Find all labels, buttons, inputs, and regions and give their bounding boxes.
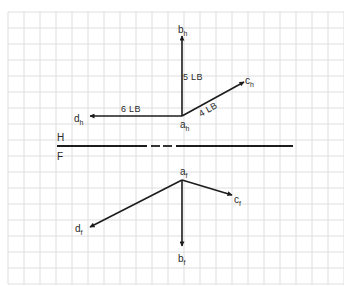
horizontal-view: ah bh ch dh 5 LB 4 LB 6 LB (74, 24, 254, 132)
vector-diagram: H F ah bh ch dh 5 LB 4 LB 6 LB af bf cf … (0, 0, 344, 286)
magnitude-label-b: 5 LB (183, 72, 203, 82)
magnitude-label-d: 6 LB (121, 104, 141, 114)
point-label-b-f: bf (178, 253, 186, 266)
fold-label-f: F (57, 151, 63, 162)
point-label-c-h: ch (245, 75, 254, 88)
fold-label-h: H (57, 132, 64, 143)
vector-c-f (182, 180, 232, 195)
point-label-d-f: df (75, 223, 83, 236)
graph-paper-grid (8, 12, 344, 284)
point-label-b-h: bh (178, 24, 188, 37)
point-label-a-h: ah (180, 119, 190, 132)
point-label-c-f: cf (234, 194, 241, 207)
